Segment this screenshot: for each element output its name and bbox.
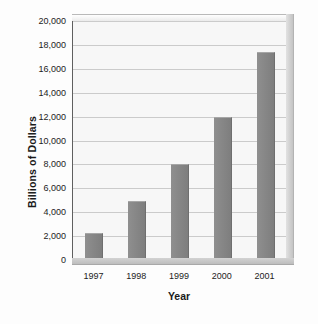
y-axis-tick-label: 20,000 xyxy=(24,16,66,26)
bar xyxy=(214,117,232,260)
y-axis-tick-label: 18,000 xyxy=(24,40,66,50)
x-axis-tick-label: 2001 xyxy=(255,271,275,281)
bar xyxy=(257,52,275,260)
bar-chart: Billions of Dollars 02,0004,0006,0008,00… xyxy=(0,0,318,324)
x-axis-title: Year xyxy=(72,290,286,302)
bar-slot xyxy=(85,21,103,260)
y-axis-tick-label: 6,000 xyxy=(24,183,66,193)
chart-floor-face xyxy=(72,258,294,265)
y-axis-tick-label: 12,000 xyxy=(24,112,66,122)
chart-floor xyxy=(66,258,300,267)
bar-slot xyxy=(257,21,275,260)
bar xyxy=(171,164,189,260)
x-axis-tick-label: 2000 xyxy=(212,271,232,281)
y-axis-tick-label: 0 xyxy=(24,255,66,265)
y-axis-tick-label: 16,000 xyxy=(24,64,66,74)
plot-right-bevel xyxy=(286,14,294,260)
bar xyxy=(128,201,146,260)
bar xyxy=(85,233,103,260)
y-axis-tick-label: 2,000 xyxy=(24,231,66,241)
plot-shell xyxy=(72,14,294,260)
plot-area xyxy=(72,21,286,260)
bar-slot xyxy=(171,21,189,260)
x-axis-tick-label: 1997 xyxy=(83,271,103,281)
y-axis-tick-label: 8,000 xyxy=(24,159,66,169)
y-axis-tick-label: 10,000 xyxy=(24,136,66,146)
bars-layer xyxy=(73,21,286,260)
bar-slot xyxy=(214,21,232,260)
x-axis-tick-labels: 19971998199920002001 xyxy=(72,271,286,285)
bar-slot xyxy=(128,21,146,260)
y-axis-tick-label: 4,000 xyxy=(24,207,66,217)
y-axis-tick-label: 14,000 xyxy=(24,88,66,98)
plot-top-bevel xyxy=(72,14,294,21)
x-axis-tick-label: 1998 xyxy=(126,271,146,281)
y-axis-tick-labels: 02,0004,0006,0008,00010,00012,00014,0001… xyxy=(24,14,66,260)
x-axis-tick-label: 1999 xyxy=(169,271,189,281)
